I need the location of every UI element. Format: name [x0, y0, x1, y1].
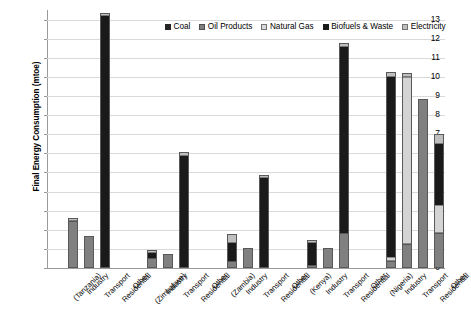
- bar-segment-biofuels-waste: [307, 243, 317, 265]
- no-data-annotation: No data: [418, 236, 427, 263]
- bar-segment-oil-products: [163, 254, 173, 268]
- bar-segment-electricity: [434, 134, 444, 144]
- bar-segment-biofuels-waste: [386, 77, 396, 257]
- bar-transport-12: [243, 248, 253, 268]
- y-axis-tickmark: [44, 96, 47, 97]
- bar-industry-1: [68, 218, 78, 268]
- y-axis-tickmark: [44, 39, 47, 40]
- bar-segment-biofuels-waste: [227, 243, 237, 261]
- bar-industry-11: [227, 234, 237, 268]
- bar-segment-natural-gas: [402, 77, 412, 244]
- bar-segment-biofuels-waste: [259, 178, 269, 268]
- bar-segment-oil-products: [147, 258, 157, 269]
- y-axis-tickmark: [44, 58, 47, 59]
- bar-segment-biofuels-waste: [100, 16, 110, 268]
- y-axis-tickmark: [44, 172, 47, 173]
- y-axis-tickmark: [44, 115, 47, 116]
- bar-residential-8: [179, 152, 189, 268]
- y-axis-title: Final Energy Consumption (mtoe): [32, 27, 41, 227]
- bar-industry-6: [147, 250, 157, 268]
- y-axis-tickmark: [44, 230, 47, 231]
- bar-segment-oil-products: [386, 261, 396, 268]
- bar-segment-biofuels-waste: [339, 47, 349, 232]
- y-axis-tickmark: [44, 153, 47, 154]
- bar-segment-electricity: [227, 234, 237, 244]
- bar-industry-21: [386, 72, 396, 268]
- bar-segment-oil-products: [243, 248, 253, 268]
- y-axis-tickmark: [44, 77, 47, 78]
- bar-residential-13: [259, 175, 269, 268]
- bar-transport-7: [163, 254, 173, 268]
- bar-segment-natural-gas: [434, 205, 444, 233]
- y-axis-tickmark: [44, 211, 47, 212]
- bar-segment-biofuels-waste: [434, 144, 444, 205]
- y-axis-tickmark: [44, 134, 47, 135]
- y-axis-tick-label: 13: [410, 15, 440, 23]
- bar-segment-oil-products: [323, 248, 333, 268]
- y-axis-tick-label: 10: [410, 72, 440, 80]
- bar-transport-2: [84, 236, 94, 268]
- bar-segment-oil-products: [68, 221, 78, 268]
- bar-transport-22: [402, 73, 412, 268]
- bar-segment-oil-products: [339, 233, 349, 268]
- bar-residential-18: [339, 43, 349, 269]
- x-axis-line: [47, 268, 445, 269]
- bar-other-24: [434, 134, 444, 268]
- y-axis-tickmark: [44, 192, 47, 193]
- y-axis-tick-label: 12: [410, 34, 440, 42]
- y-axis-tick-label: 11: [410, 53, 440, 61]
- bar-segment-oil-products: [307, 265, 317, 268]
- bar-residential-3: [100, 13, 110, 268]
- bar-industry-16: [307, 240, 317, 268]
- y-axis-tickmark: [44, 20, 47, 21]
- plot-area: 012345678910111213No data: [47, 10, 445, 268]
- bar-segment-biofuels-waste: [179, 156, 189, 268]
- bar-transport-17: [323, 248, 333, 268]
- y-axis-tickmark: [44, 249, 47, 250]
- bar-segment-oil-products: [434, 233, 444, 268]
- bar-segment-oil-products: [402, 244, 412, 268]
- bar-segment-oil-products: [227, 261, 237, 268]
- y-axis-tickmark: [44, 268, 47, 269]
- bar-segment-oil-products: [84, 236, 94, 268]
